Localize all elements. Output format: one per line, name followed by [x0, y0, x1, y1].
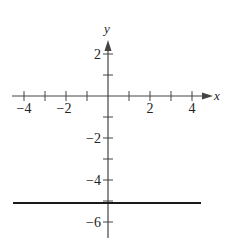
x-tick-label: −4 — [17, 101, 32, 116]
y-tick-label: −4 — [86, 173, 101, 188]
y-axis-label: y — [102, 21, 110, 36]
y-tick-label: 2 — [94, 47, 101, 62]
x-axis-arrow-icon — [202, 93, 213, 100]
y-tick-label: −6 — [86, 215, 101, 230]
x-tick-label: 4 — [189, 101, 196, 116]
x-axis-label: x — [213, 88, 220, 103]
x-tick-label: 2 — [147, 101, 154, 116]
y-tick-label: −2 — [86, 131, 101, 146]
y-axis-arrow-icon — [105, 40, 112, 51]
coordinate-plane: x y −4 −2 2 4 2 −2 −4 −6 — [0, 0, 228, 241]
x-tick-label: −2 — [57, 101, 72, 116]
